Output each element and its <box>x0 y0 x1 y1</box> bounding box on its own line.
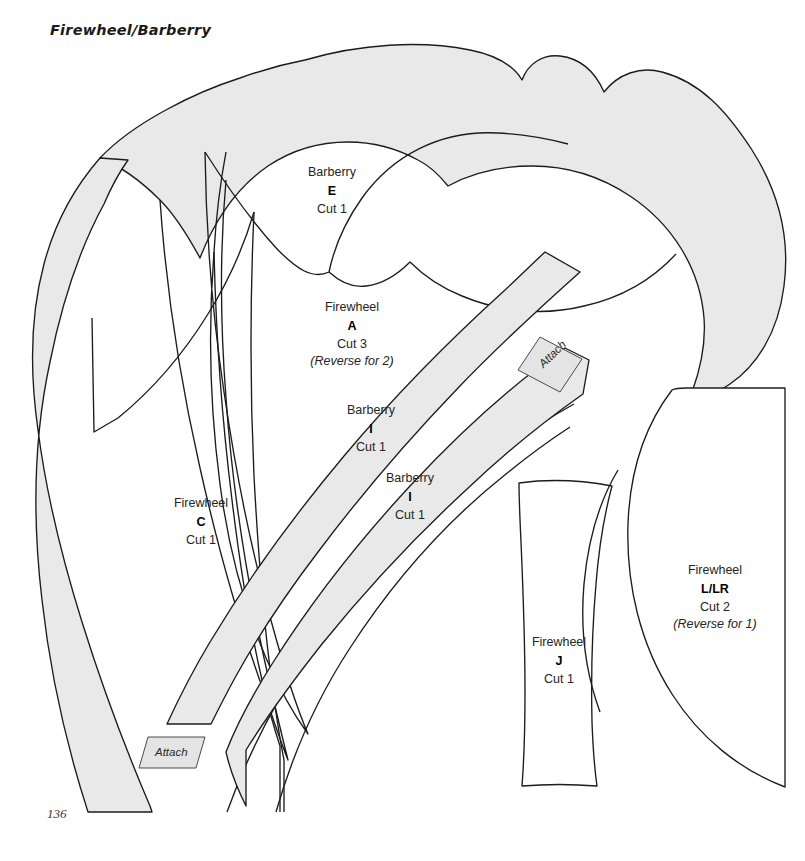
shape-left-arc-body <box>33 158 152 812</box>
shape-outer-arc <box>100 45 786 394</box>
shape-strip-I-upper <box>167 252 580 724</box>
shape-bottom-sweep <box>227 404 574 812</box>
shape-L-LR <box>628 388 785 787</box>
pattern-drawing <box>0 0 805 861</box>
page-number: 136 <box>47 806 67 822</box>
page-title: Firewheel/Barberry <box>50 22 211 38</box>
attach-tab-lower <box>139 737 205 768</box>
pattern-page: Firewheel/Barberry Barberry E Cut 1 Fire… <box>0 0 805 861</box>
shape-J <box>519 481 612 786</box>
